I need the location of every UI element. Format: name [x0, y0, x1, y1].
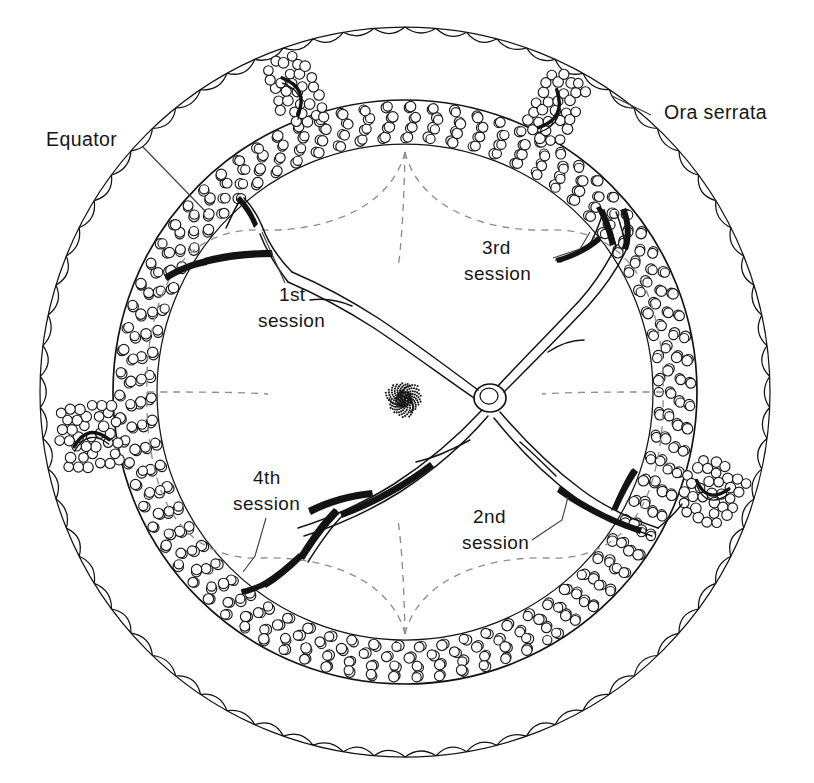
label-session-1-line2: session — [258, 310, 325, 331]
label-ora-serrata: Ora serrata — [664, 101, 767, 123]
label-session-2-line2: session — [462, 532, 529, 553]
retina-diagram-svg: Equator Ora serrata 1st session 2nd sess… — [0, 0, 814, 783]
label-session-4-line1: 4th — [253, 467, 281, 488]
label-session-1-line1: 1st — [279, 284, 306, 305]
label-session-4-line2: session — [233, 493, 300, 514]
retina-diagram-figure: Equator Ora serrata 1st session 2nd sess… — [0, 0, 814, 783]
label-session-3-line1: 3rd — [482, 237, 511, 258]
label-session-3-line2: session — [464, 263, 531, 284]
label-session-2-line1: 2nd — [473, 506, 506, 527]
label-equator: Equator — [46, 128, 117, 150]
